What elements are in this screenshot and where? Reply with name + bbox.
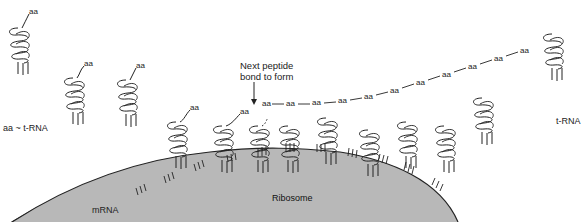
amino-acid-label: aa [84,60,93,68]
peptide-aa: aa [442,71,451,79]
peptide-aa: aa [312,99,321,107]
ribosome-body [12,148,458,222]
trna-11 [436,126,456,173]
peptide-aa: aa [468,63,477,71]
amino-acid-label: aa [29,8,38,16]
peptide-aa: aa [338,97,347,105]
trna-2 [65,66,85,125]
peptide-bonds [272,52,518,104]
trna-13 [544,34,564,81]
peptide-aa: aa [390,87,399,95]
trna-3 [118,68,138,127]
note-line-1: Next peptide [240,60,293,71]
peptide-aa: aa [520,47,529,55]
trna-12 [474,98,494,145]
trna-label: t-RNA [556,116,581,126]
peptide-aa: aa [286,100,295,108]
trna-1 [10,14,30,75]
ribosome-label: Ribosome [272,193,313,203]
aa-trna-label: aa ~ t-RNA [3,123,48,133]
diagram-svg [0,0,587,222]
peptide-aa: aa [416,79,425,87]
note-line-2: bond to form [240,71,293,82]
amino-acid-label: aa [136,62,145,70]
mrna-label: mRNA [92,205,119,215]
trna-10 [398,122,418,169]
peptide-aa: aa [262,100,271,108]
diagram-canvas: aa aa aa aa aa aa aa aa aa aa aa aa aa a… [0,0,587,222]
arrow-head-icon [251,99,257,105]
next-peptide-bond-note: Next peptide bond to form [240,60,293,82]
peptide-aa: aa [494,55,503,63]
amino-acid-label: aa [190,104,199,112]
peptide-aa: aa [364,93,373,101]
amino-acid-label: aa [240,108,249,116]
